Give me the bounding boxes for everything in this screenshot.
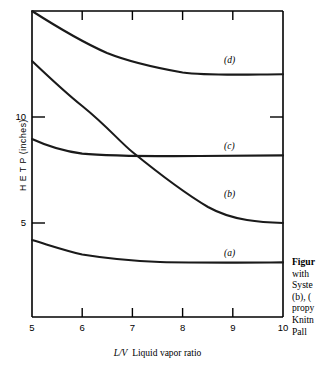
xtick-label-6: 6	[72, 322, 92, 333]
x-axis-title-text: Liquid vapor ratio	[132, 348, 201, 358]
x-axis-title-symbol: L/V	[114, 348, 128, 358]
y-tick-marks	[32, 117, 283, 223]
curve-b	[32, 61, 283, 223]
caption-line-1: Figur	[292, 256, 325, 268]
figure-root: 5 6 7 8 9 10 10 5 H E T P (inches) L/V L…	[0, 0, 325, 390]
xtick-label-8: 8	[173, 322, 193, 333]
curve-a	[32, 240, 283, 263]
xtick-label-7: 7	[122, 322, 142, 333]
caption-line-3: Syste	[292, 279, 325, 291]
x-tick-marks	[82, 11, 233, 317]
curve-c	[32, 139, 283, 156]
chart-svg	[0, 0, 290, 390]
xtick-label-9: 9	[223, 322, 243, 333]
curve-label-c: (c)	[224, 141, 235, 151]
plot-area: 5 6 7 8 9 10 10 5 H E T P (inches) L/V L…	[0, 0, 290, 390]
xtick-label-5: 5	[22, 322, 42, 333]
caption-line-4: (b), (	[292, 291, 325, 303]
x-axis-title: L/V Liquid vapor ratio	[32, 348, 283, 358]
y-axis-title: H E T P (inches)	[18, 100, 28, 210]
curve-label-b: (b)	[224, 189, 235, 199]
curve-d	[32, 11, 283, 75]
caption-line-7: Pall	[292, 326, 325, 338]
curve-label-a: (a)	[224, 248, 235, 258]
xtick-label-10: 10	[273, 322, 293, 333]
figure-caption: Figur with Syste (b), ( propy Knitn Pall	[292, 256, 325, 337]
caption-line-2: with	[292, 268, 325, 280]
curve-label-d: (d)	[224, 55, 235, 65]
caption-line-5: propy	[292, 302, 325, 314]
caption-line-6: Knitn	[292, 314, 325, 326]
axis-frame	[32, 11, 283, 317]
ytick-label-5: 5	[4, 217, 26, 228]
